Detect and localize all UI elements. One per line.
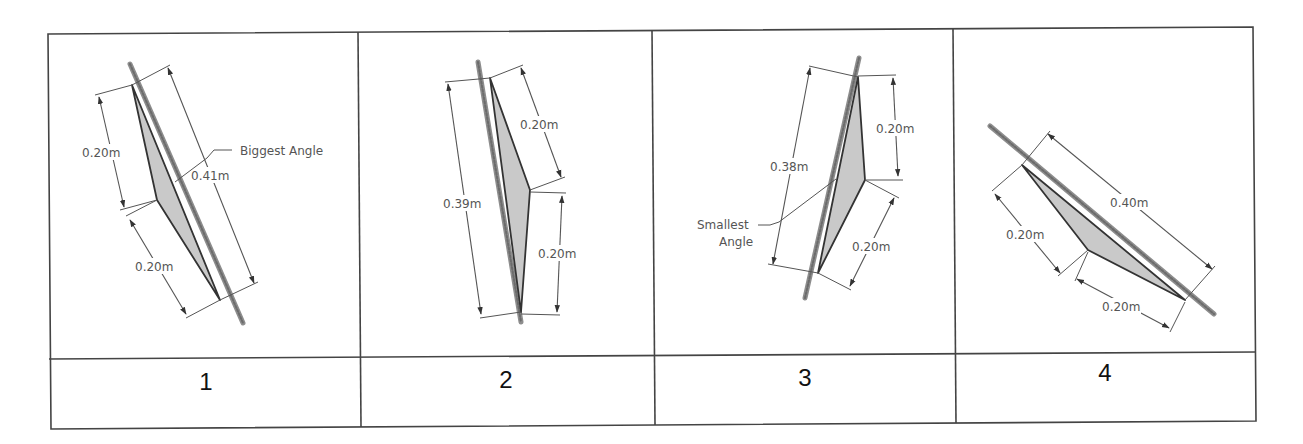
annotation-smallest-angle-line2: Angle <box>719 235 753 249</box>
column-divider-1 <box>358 32 361 427</box>
annotation-biggest-angle: Biggest Angle <box>240 144 323 158</box>
extension-line <box>186 300 220 318</box>
dimension-label-base: 0.38m <box>770 160 808 174</box>
extension-line <box>95 85 132 95</box>
panel-2-diagram: 0.39m 0.20m 0.20m <box>442 62 579 322</box>
dimension-label-side-b: 0.20m <box>852 240 890 254</box>
extension-line <box>992 165 1022 191</box>
panel-1-diagram: 0.20m 0.20m 0.41m Biggest Angle <box>80 64 323 323</box>
panel-3-diagram: 0.38m 0.20m 0.20m Smallest Angle <box>697 58 915 298</box>
dimension-label-side-b: 0.20m <box>135 260 173 274</box>
extension-line <box>809 66 858 77</box>
rod-line-core <box>130 64 243 323</box>
dimension-label-side-b: 0.20m <box>538 247 576 261</box>
extension-line <box>1075 252 1088 281</box>
extension-line <box>132 65 170 85</box>
dimension-label-side-b: 0.20m <box>1102 300 1140 314</box>
dimension-label-base: 0.40m <box>1110 196 1148 210</box>
column-divider-2 <box>652 30 655 425</box>
rod-line-core <box>990 126 1214 314</box>
column-label-1: 1 <box>199 368 212 395</box>
extension-line <box>858 75 896 76</box>
column-label-2: 2 <box>499 366 512 393</box>
panel-4-diagram: 0.40m 0.20m 0.20m <box>990 126 1215 332</box>
extension-line <box>490 65 523 78</box>
triangle-shape <box>1022 165 1185 300</box>
extension-line <box>120 200 157 210</box>
dimension-label-side-a: 0.20m <box>82 146 120 160</box>
extension-line <box>126 200 157 216</box>
dimension-label-base: 0.41m <box>191 169 229 183</box>
column-label-3: 3 <box>798 364 811 391</box>
column-label-4: 4 <box>1098 359 1111 386</box>
extension-line <box>1022 131 1050 165</box>
row-divider <box>49 352 1255 359</box>
dimension-label-side-a: 0.20m <box>1006 228 1044 242</box>
extension-line <box>530 177 565 190</box>
extension-line <box>1185 266 1215 300</box>
extension-line <box>865 180 899 198</box>
extension-line <box>521 314 560 315</box>
extension-line <box>1170 302 1185 332</box>
triangle-shape <box>490 78 530 312</box>
dimension-label-side-a: 0.20m <box>876 122 914 136</box>
dimension-label-base: 0.39m <box>443 197 481 211</box>
dimension-label-side-a: 0.20m <box>520 118 558 132</box>
annotation-smallest-angle-line1: Smallest <box>697 218 749 232</box>
column-divider-3 <box>953 29 956 423</box>
extension-line <box>818 273 851 290</box>
extension-line <box>480 312 521 318</box>
extension-line <box>530 192 566 193</box>
diagram-table: 0.20m 0.20m 0.41m Biggest Angle 0.39m 0.… <box>0 0 1303 444</box>
